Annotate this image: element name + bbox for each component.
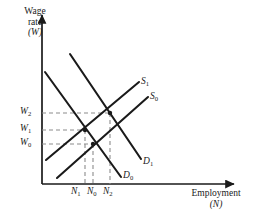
- curve-d0: [45, 72, 121, 177]
- x-tick-label-n2: N2: [103, 186, 113, 197]
- curve-d1: [70, 54, 141, 159]
- labour-market-diagram: Wage rate (W) Employment (N) S1 S0 D1 D0…: [0, 0, 257, 224]
- y-axis-title: Wage rate (W): [6, 6, 64, 38]
- curve-label-s1-sub: 1: [146, 80, 149, 87]
- y-axis-title-symbol: (W): [6, 27, 64, 38]
- curve-label-d0-base: D: [123, 170, 130, 180]
- y-tick-label-w1: W1: [20, 123, 31, 134]
- y-tick-label-w2: W2: [20, 106, 31, 117]
- x-tick-label-n1-sub: 1: [77, 190, 80, 197]
- equilibrium-point-e1: [83, 128, 87, 132]
- x-tick-label-n2-sub: 2: [109, 190, 112, 197]
- curve-label-d1: D1: [143, 156, 153, 167]
- y-tick-label-w0: W0: [20, 137, 31, 148]
- x-tick-label-n0-sub: 0: [93, 190, 96, 197]
- curve-label-s0: S0: [150, 91, 158, 102]
- curve-label-d0: D0: [123, 170, 133, 181]
- x-tick-label-n1: N1: [71, 186, 81, 197]
- y-tick-label-w0-base: W: [20, 137, 28, 147]
- curve-label-d1-sub: 1: [150, 160, 153, 167]
- x-axis-title-text: Employment: [178, 188, 254, 199]
- x-axis-title-symbol: (N): [178, 199, 254, 210]
- equilibrium-point-e0: [91, 142, 95, 146]
- y-tick-label-w1-base: W: [20, 123, 28, 133]
- curve-label-s1: S1: [141, 76, 149, 87]
- equilibrium-point-e2: [108, 111, 112, 115]
- y-axis-title-line1: Wage: [6, 6, 64, 17]
- x-tick-label-n0: N0: [87, 186, 97, 197]
- y-tick-label-w1-sub: 1: [28, 127, 31, 134]
- y-axis-title-line2: rate: [6, 17, 64, 28]
- y-tick-label-w2-sub: 2: [28, 110, 31, 117]
- curve-label-s0-sub: 0: [155, 95, 158, 102]
- y-tick-label-w2-base: W: [20, 106, 28, 116]
- x-axis-title: Employment (N): [178, 188, 254, 209]
- curve-label-d0-sub: 0: [130, 174, 133, 181]
- y-tick-label-w0-sub: 0: [28, 141, 31, 148]
- curve-label-d1-base: D: [143, 156, 150, 166]
